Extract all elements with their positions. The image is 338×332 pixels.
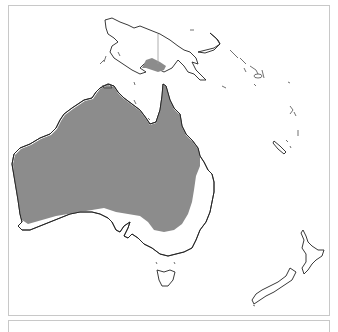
new-guinea — [100, 18, 220, 80]
tasmania — [156, 262, 175, 286]
australia — [12, 82, 214, 256]
pacific-islands — [222, 50, 298, 154]
new-zealand — [252, 230, 324, 306]
